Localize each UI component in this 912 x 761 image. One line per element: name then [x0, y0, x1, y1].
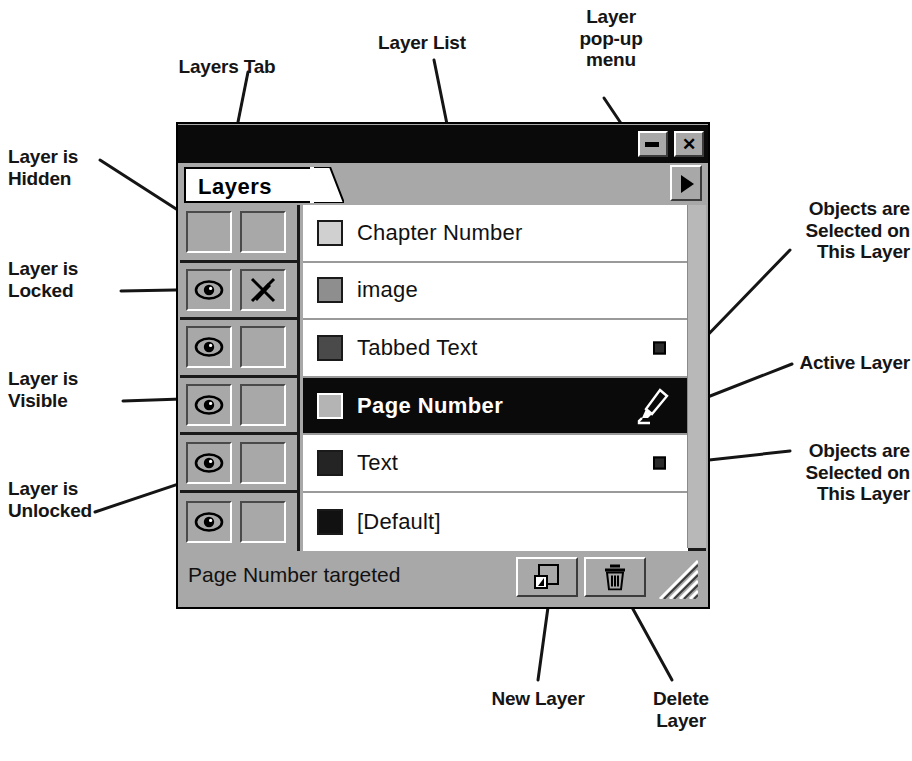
- table-row[interactable]: Chapter Number: [303, 205, 688, 263]
- pen-icon: [636, 387, 670, 425]
- annotation-layer-visible: Layer is Visible: [8, 368, 118, 411]
- layer-color-swatch: [317, 450, 343, 476]
- layer-name: Page Number: [357, 393, 503, 419]
- eye-icon: [194, 279, 224, 301]
- annotation-layers-tab: Layers Tab: [172, 56, 282, 78]
- new-layer-button[interactable]: [516, 557, 578, 597]
- visibility-toggle[interactable]: [186, 326, 232, 368]
- layer-color-swatch: [317, 277, 343, 303]
- layer-name: image: [357, 277, 418, 303]
- status-text: Page Number targeted: [188, 563, 400, 587]
- lock-toggle[interactable]: [240, 269, 286, 311]
- layer-name: Chapter Number: [357, 220, 522, 246]
- table-row[interactable]: Tabbed Text: [303, 320, 688, 378]
- resize-grip-icon[interactable]: [654, 557, 698, 599]
- eye-icon: [194, 394, 224, 416]
- tab-layers[interactable]: Layers: [184, 167, 312, 203]
- annotation-layer-locked: Layer is Locked: [8, 258, 118, 301]
- layer-list-scroll-rail[interactable]: [687, 205, 706, 548]
- toggle-row: [180, 205, 297, 263]
- tab-slant-edge: [310, 167, 344, 203]
- minimize-button[interactable]: [638, 131, 668, 157]
- annotation-objects-selected-top: Objects are Selected on This Layer: [798, 198, 910, 263]
- lock-toggle[interactable]: [240, 442, 286, 484]
- new-page-icon: [534, 564, 560, 590]
- layer-color-swatch: [317, 335, 343, 361]
- lock-toggle[interactable]: [240, 501, 286, 543]
- layer-name: Text: [357, 450, 398, 476]
- annotation-layer-list: Layer List: [362, 32, 482, 54]
- eye-icon: [194, 452, 224, 474]
- annotation-delete-layer: Delete Layer: [626, 688, 736, 731]
- lock-toggle[interactable]: [240, 326, 286, 368]
- toggle-row: [180, 320, 297, 378]
- layer-popup-menu-button[interactable]: [670, 165, 702, 201]
- eye-icon: [194, 511, 224, 533]
- table-row[interactable]: Text: [303, 435, 688, 493]
- visibility-toggle[interactable]: [186, 211, 232, 253]
- close-button[interactable]: ✕: [674, 131, 704, 157]
- layer-name: [Default]: [357, 509, 441, 535]
- close-icon: ✕: [676, 133, 702, 155]
- annotation-active-layer: Active Layer: [798, 352, 910, 374]
- annotation-layer-popup-menu: Layer pop-up menu: [556, 6, 666, 71]
- lock-toggle[interactable]: [240, 384, 286, 426]
- delete-layer-button[interactable]: [584, 557, 646, 597]
- panel-status-bar: Page Number targeted: [180, 551, 706, 605]
- toggle-row: [180, 263, 297, 321]
- table-row[interactable]: image: [303, 263, 688, 321]
- layer-color-swatch: [317, 220, 343, 246]
- visibility-toggle[interactable]: [186, 269, 232, 311]
- selection-indicator: [653, 341, 666, 354]
- visibility-lock-column: [180, 205, 300, 551]
- visibility-toggle[interactable]: [186, 384, 232, 426]
- toggle-row: [180, 493, 297, 551]
- tab-strip: Layers: [180, 163, 706, 205]
- toggle-row: [180, 378, 297, 436]
- pencil-crossed-out-icon: [250, 277, 276, 303]
- panel-body: Chapter Number image Tabbed Text Page Nu…: [180, 205, 706, 551]
- trash-icon: [603, 564, 627, 591]
- visibility-toggle[interactable]: [186, 442, 232, 484]
- selection-indicator: [653, 457, 666, 470]
- annotation-objects-selected-bottom: Objects are Selected on This Layer: [798, 440, 910, 505]
- minimize-icon: [645, 142, 659, 147]
- layer-list: Chapter Number image Tabbed Text Page Nu…: [303, 205, 706, 551]
- visibility-toggle[interactable]: [186, 501, 232, 543]
- layer-color-swatch: [317, 509, 343, 535]
- lock-toggle[interactable]: [240, 211, 286, 253]
- panel-titlebar[interactable]: ✕: [178, 125, 708, 163]
- layer-name: Tabbed Text: [357, 335, 477, 361]
- table-row[interactable]: [Default]: [303, 493, 688, 551]
- triangle-right-icon: [681, 175, 694, 193]
- toggle-row: [180, 435, 297, 493]
- table-row[interactable]: Page Number: [303, 378, 688, 436]
- eye-icon: [194, 336, 224, 358]
- annotation-layer-unlocked: Layer is Unlocked: [8, 478, 118, 521]
- layer-list-rows: Chapter Number image Tabbed Text Page Nu…: [303, 205, 688, 548]
- annotation-new-layer: New Layer: [468, 688, 608, 710]
- layer-color-swatch: [317, 393, 343, 419]
- annotation-layer-hidden: Layer is Hidden: [8, 146, 118, 189]
- tab-layers-label: Layers: [198, 174, 272, 200]
